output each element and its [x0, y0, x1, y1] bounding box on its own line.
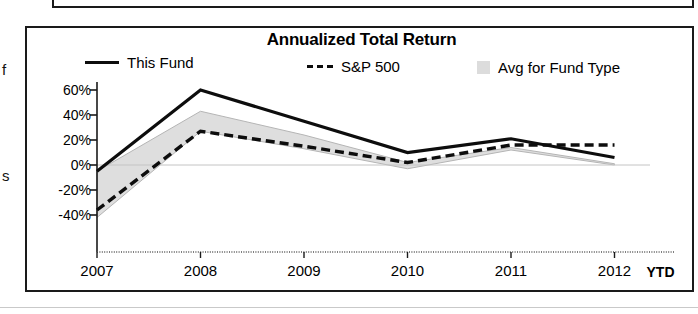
x-axis-tick-label: 2010: [391, 262, 424, 279]
x-axis-tick-label: 2012: [598, 262, 631, 279]
y-axis-tick-label: 60%: [35, 82, 91, 98]
y-axis-tick-label: 40%: [35, 107, 91, 123]
margin-text-fragment-bottom: s: [2, 168, 10, 183]
margin-text-fragment-top: f: [2, 62, 6, 77]
annualized-total-return-chart: Annualized Total Return This Fund S&P 50…: [25, 26, 694, 292]
x-axis-tick-label: 2009: [287, 262, 320, 279]
y-axis-tick-label: -20%: [35, 182, 91, 198]
x-axis-ytd-label: YTD: [647, 264, 675, 280]
x-axis-labels: YTD 200720082009201020112012: [27, 256, 696, 290]
y-axis-tick-label: 20%: [35, 132, 91, 148]
page-divider: [0, 307, 698, 308]
chart-svg: [27, 28, 696, 294]
x-axis-tick-label: 2011: [495, 262, 527, 279]
y-axis-tick-label: -40%: [35, 207, 91, 223]
x-axis-tick-label: 2008: [184, 262, 217, 279]
y-axis-tick-label: 0%: [35, 157, 91, 173]
x-axis-tick-label: 2007: [80, 262, 113, 279]
plot-area: [27, 28, 696, 294]
y-axis-labels: 60%40%20%0%-20%-40%: [35, 28, 91, 294]
document-box-above: [52, 0, 694, 8]
